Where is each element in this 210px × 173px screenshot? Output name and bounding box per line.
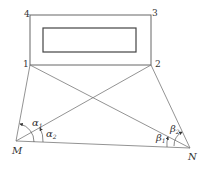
label-alpha2: α2 <box>46 128 57 140</box>
line-M-2 <box>16 65 151 141</box>
line-M-1 <box>16 65 30 141</box>
label-point-1: 1 <box>23 59 29 69</box>
outer-rectangle <box>30 15 151 65</box>
label-point-N: N <box>187 151 198 162</box>
label-alpha1: α1 <box>32 117 43 129</box>
label-beta1: β1 <box>155 132 166 144</box>
label-beta2: β2 <box>169 123 180 135</box>
inner-rectangle <box>43 28 136 52</box>
label-point-2: 2 <box>155 59 161 69</box>
label-point-3: 3 <box>152 8 158 18</box>
angle-arc-beta1 <box>167 137 168 147</box>
label-point-M: M <box>11 145 23 156</box>
angle-arc-alpha2 <box>40 128 43 142</box>
label-point-4: 4 <box>24 9 30 19</box>
diagram-canvas: 4 3 1 2 M N α1 α2 β1 β2 <box>0 0 210 173</box>
